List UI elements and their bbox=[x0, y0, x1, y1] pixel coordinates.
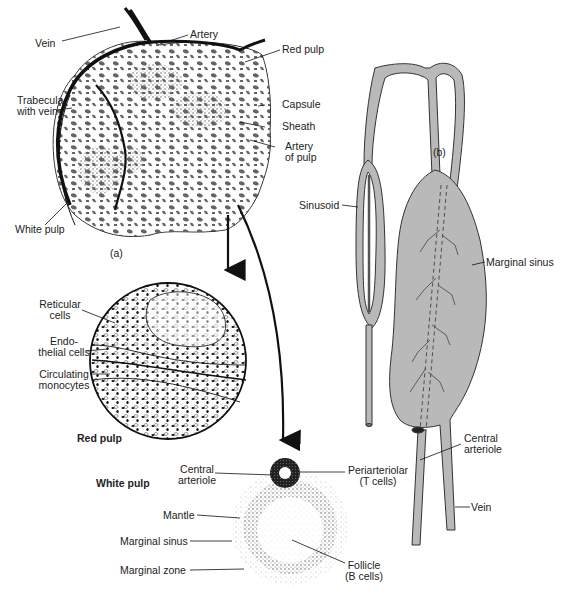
label-capsule: Capsule bbox=[282, 99, 321, 110]
label-marginal-zone: Marginal zone bbox=[120, 565, 186, 576]
red-pulp-detail-circle bbox=[82, 283, 246, 439]
arrow-to-white-pulp bbox=[238, 205, 283, 440]
label-mantle: Mantle bbox=[163, 510, 195, 521]
label-monocytes-line2: monocytes bbox=[36, 380, 92, 391]
label-sheath: Sheath bbox=[282, 121, 315, 132]
spleen-section-a bbox=[45, 8, 280, 236]
label-marginal-sinus-b: Marginal sinus bbox=[486, 257, 554, 268]
label-central-arteriole-line2: arteriole bbox=[175, 475, 219, 486]
panel-b-tag: (b) bbox=[433, 147, 446, 158]
label-trabecula-line2: with vein bbox=[17, 106, 58, 117]
label-vein-a: Vein bbox=[35, 38, 55, 49]
label-marginal-sinus-white: Marginal sinus bbox=[120, 536, 188, 547]
label-reticular-line2: cells bbox=[38, 310, 82, 321]
label-vein-b: Vein bbox=[471, 502, 491, 513]
panel-a-tag: (a) bbox=[110, 248, 123, 259]
label-central-arteriole-b-line2: arteriole bbox=[464, 444, 502, 455]
label-periarteriolar-line2: (T cells) bbox=[342, 476, 414, 487]
label-sinusoid: Sinusoid bbox=[299, 200, 339, 211]
label-follicle-line2: (B cells) bbox=[344, 571, 384, 582]
label-red-pulp-a: Red pulp bbox=[282, 44, 324, 55]
label-artery: Artery bbox=[190, 29, 218, 40]
label-artery-of-pulp-line2: of pulp bbox=[285, 152, 317, 163]
red-pulp-title: Red pulp bbox=[77, 433, 122, 444]
label-white-pulp-a: White pulp bbox=[15, 224, 65, 235]
white-pulp-title: White pulp bbox=[96, 478, 150, 489]
label-endothelial-line2: thelial cells bbox=[36, 347, 92, 358]
